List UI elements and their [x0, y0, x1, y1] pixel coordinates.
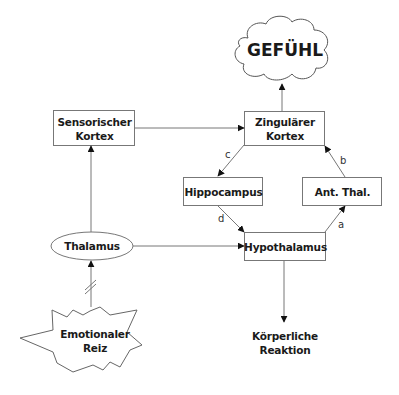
edge-label-a: a: [338, 219, 344, 230]
emotionaler-line1: Emotionaler: [60, 327, 129, 341]
sensorischer-line2: Kortex: [75, 129, 113, 143]
edge-label-c: c: [225, 149, 231, 160]
ant-thal-label: Ant. Thal.: [303, 178, 382, 206]
ant-thal-text: Ant. Thal.: [315, 185, 371, 199]
sensorischer-kortex-label: Sensorischer Kortex: [54, 111, 135, 146]
edge-label-b: b: [340, 155, 346, 166]
sensorischer-line1: Sensorischer: [57, 115, 131, 129]
edge-c-zingulaerer-hippocampus: [218, 145, 244, 176]
zingulaerer-line2: Kortex: [266, 129, 304, 143]
emotionaler-reiz-label: Emotionaler Reiz: [50, 324, 140, 358]
hypothalamus-text: Hypothalamus: [244, 240, 327, 254]
zingulaerer-line1: Zingulärer: [255, 115, 315, 129]
gefuehl-label: GEFÜHL: [240, 36, 330, 64]
edge-label-d: d: [218, 213, 224, 224]
hypothalamus-label: Hypothalamus: [245, 233, 326, 261]
emotionaler-line2: Reiz: [83, 341, 107, 355]
hippocampus-text: Hippocampus: [185, 185, 263, 199]
hippocampus-label: Hippocampus: [184, 178, 263, 206]
koerperliche-line2: Reaktion: [260, 343, 311, 357]
zingulaerer-kortex-label: Zingulärer Kortex: [245, 112, 325, 146]
koerperliche-reaktion-label: Körperliche Reaktion: [240, 326, 330, 360]
gefuehl-text: GEFÜHL: [247, 43, 323, 57]
thalamus-label: Thalamus: [51, 232, 133, 260]
koerperliche-line1: Körperliche: [252, 329, 318, 343]
thalamus-text: Thalamus: [64, 239, 119, 253]
